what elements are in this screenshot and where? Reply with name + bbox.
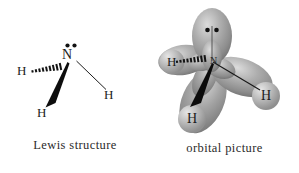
lewis-atom-n: N xyxy=(62,48,72,62)
lewis-atom-h-bottom: H xyxy=(37,106,46,119)
chemistry-figure: N H H H Lewis structure xyxy=(0,0,299,173)
bond-n-h-left-hashed xyxy=(31,63,62,73)
orbital-picture-caption: orbital picture xyxy=(150,141,299,156)
lewis-structure-panel: N H H H Lewis structure xyxy=(0,0,150,173)
bond-n-h-right xyxy=(77,61,107,90)
lewis-structure-caption: Lewis structure xyxy=(0,138,150,153)
orbital-atom-h-left: H xyxy=(167,55,176,68)
orbital-atom-h-right: H xyxy=(261,89,271,103)
orbital-picture-drawing: N xyxy=(150,0,299,141)
lewis-atom-h-right: H xyxy=(104,88,113,101)
orbital-picture-panel: N H H H orbital picture xyxy=(150,0,299,173)
orbital-atom-n: N xyxy=(210,55,217,66)
orbital-atom-h-bottom: H xyxy=(187,112,197,126)
lewis-atom-h-left: H xyxy=(17,64,26,77)
